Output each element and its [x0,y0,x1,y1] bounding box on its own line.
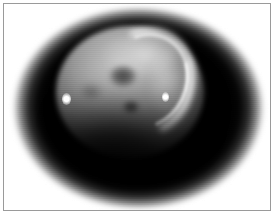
figure-root: Grayscale telescopic image of a planetar… [0,0,275,218]
bright-point-west [62,93,71,105]
bright-point-east [162,92,169,102]
terminator-shadow [48,64,218,184]
planetary-image-canvas [4,4,270,210]
planet-group [4,4,270,210]
image-frame-border [3,3,271,211]
